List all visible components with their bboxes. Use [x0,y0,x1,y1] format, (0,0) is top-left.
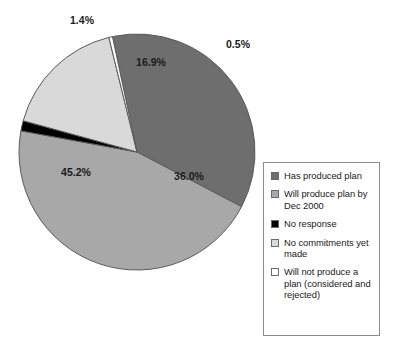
pie-slice-group [19,34,255,270]
legend-item-no-commitments-yet-made[interactable]: No commitments yet made [271,237,373,260]
legend-item-will-not-produce-a-plan[interactable]: Will not produce a plan (considered and … [271,266,373,300]
pie-slice-value-label: 36.0% [174,170,204,182]
legend-item-label: No response [284,218,337,229]
legend-item-has-produced-plan[interactable]: Has produced plan [271,170,373,181]
legend-item-label: No commitments yet made [284,237,373,260]
legend-swatch-icon [271,220,279,228]
legend-item-no-response[interactable]: No response [271,218,373,229]
legend-item-label: Will not produce a plan (considered and … [284,266,373,300]
legend-swatch-icon [271,268,279,276]
legend-swatch-icon [271,190,279,198]
chart-legend: Has produced plan Will produce plan by D… [263,162,380,336]
legend-swatch-icon [271,239,279,247]
legend-item-label: Has produced plan [284,170,362,181]
legend-item-label: Will produce plan by Dec 2000 [284,188,373,211]
pie-slice-value-label: 0.5% [226,38,251,50]
pie-chart-figure: 36.0%45.2%1.4%16.9%0.5% Has produced pla… [0,0,395,354]
pie-slice-value-label: 45.2% [61,166,91,178]
pie-slice-value-label: 16.9% [136,56,166,68]
legend-swatch-icon [271,172,279,180]
label-leader-line [219,52,233,63]
legend-item-will-produce-plan-by-dec-2000[interactable]: Will produce plan by Dec 2000 [271,188,373,211]
pie-slice-value-label: 1.4% [70,14,95,26]
